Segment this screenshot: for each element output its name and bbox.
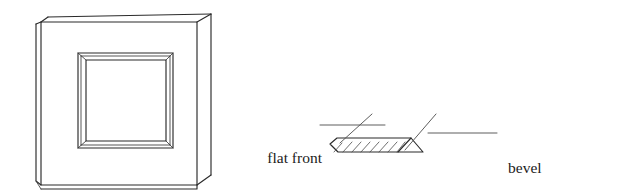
bevel-leader-diagonal: [405, 114, 436, 150]
panel-bottom-under-edge: [41, 185, 197, 189]
bevel-cross-section-label: bevel (cross-section): [508, 122, 620, 195]
panel-left-thickness-edge: [36, 24, 41, 185]
cross-section-hatching: [334, 142, 405, 152]
panel-depth-edge-top-left: [41, 17, 48, 22]
panel-front-face: [41, 22, 197, 185]
panel-left-top-thickness-edge: [36, 22, 41, 24]
cross-section-drawing: [320, 114, 497, 152]
flat-front-label-line-1: flat front: [236, 149, 322, 167]
flat-front-section-label: flat front section: [236, 112, 322, 195]
flat-front-leader-diagonal: [340, 114, 372, 143]
panel-back-top-edge: [48, 14, 211, 17]
bevel-label-line-1: bevel: [508, 159, 620, 177]
panel-drawing: [36, 14, 211, 189]
panel-right-thickness-face: [197, 14, 211, 185]
